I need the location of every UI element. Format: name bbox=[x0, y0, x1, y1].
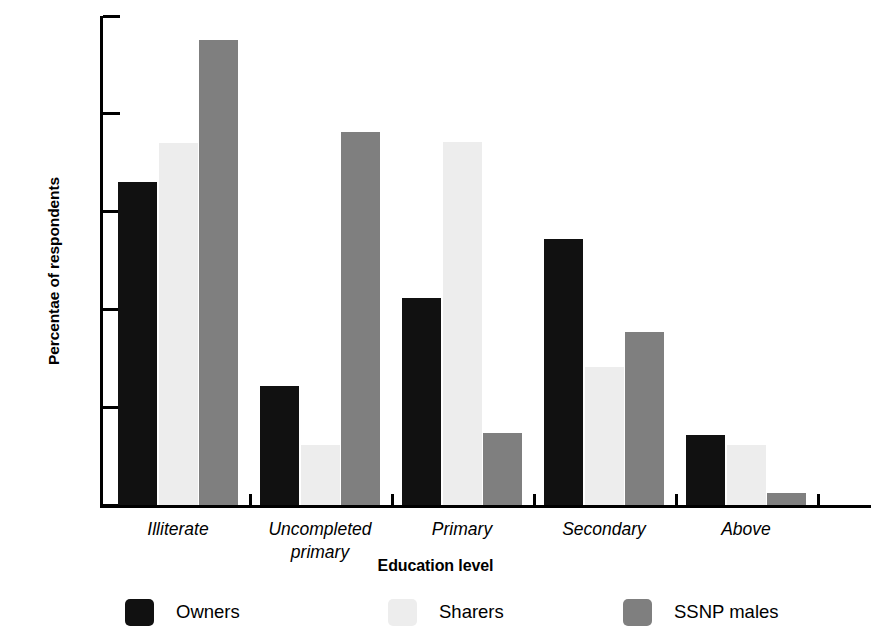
bar-sharers-primary bbox=[443, 142, 482, 505]
x-axis-tick bbox=[391, 494, 394, 505]
x-axis-title: Education level bbox=[0, 557, 871, 575]
bar-owners-primary bbox=[402, 298, 441, 505]
x-axis-tick bbox=[249, 494, 252, 505]
bar-ssnp-males-secondary bbox=[625, 332, 664, 505]
y-axis-tick bbox=[103, 112, 120, 115]
legend-swatch-icon bbox=[125, 599, 154, 626]
bar-owners-above bbox=[686, 435, 725, 505]
legend-item-owners: Owners bbox=[125, 596, 240, 628]
legend-label: SSNP males bbox=[674, 601, 779, 623]
bar-owners-secondary bbox=[544, 239, 583, 505]
y-axis-line bbox=[100, 16, 103, 508]
bar-sharers-illiterate bbox=[159, 143, 198, 505]
legend-label: Owners bbox=[176, 601, 240, 623]
legend-swatch-icon bbox=[623, 599, 652, 626]
chart-legend: OwnersSharersSSNP males bbox=[0, 596, 871, 635]
x-axis-tick bbox=[675, 494, 678, 505]
bar-owners-uncompleted-primary bbox=[260, 386, 299, 505]
x-axis-line bbox=[100, 505, 871, 508]
legend-item-ssnp-males: SSNP males bbox=[623, 596, 779, 628]
x-axis-label-above: Above bbox=[656, 518, 836, 541]
bar-chart: Percentae of respondents 0%10%20%30%40%5… bbox=[0, 0, 871, 635]
bar-sharers-uncompleted-primary bbox=[301, 445, 340, 505]
bar-owners-illiterate bbox=[118, 182, 157, 505]
legend-label: Sharers bbox=[439, 601, 504, 623]
bar-ssnp-males-uncompleted-primary bbox=[341, 132, 380, 505]
bar-ssnp-males-primary bbox=[483, 433, 522, 505]
plot-area: 0%10%20%30%40%50% bbox=[100, 16, 871, 508]
x-axis-tick bbox=[817, 494, 820, 505]
legend-item-sharers: Sharers bbox=[388, 596, 504, 628]
y-axis-tick bbox=[103, 15, 120, 18]
bar-ssnp-males-above bbox=[767, 493, 806, 505]
legend-swatch-icon bbox=[388, 599, 417, 626]
x-axis-tick bbox=[533, 494, 536, 505]
bar-sharers-secondary bbox=[585, 367, 624, 505]
y-axis-title: Percentae of respondents bbox=[45, 121, 63, 421]
bar-ssnp-males-illiterate bbox=[199, 40, 238, 505]
bar-sharers-above bbox=[727, 445, 766, 505]
